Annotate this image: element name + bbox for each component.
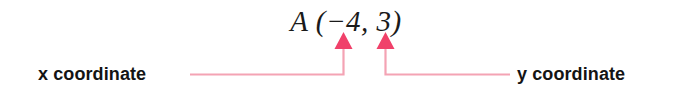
y-leader-line [386,47,511,75]
y-coordinate-label: y coordinate [517,64,625,84]
x-coordinate-leader [190,32,353,75]
y-coordinate-leader [377,32,511,75]
x-coordinate-label: x coordinate [38,64,146,84]
ordered-pair-notation: A (−4, 3) [0,4,692,38]
coordinate-callout-figure: A (−4, 3) x coordinate y coordinate [0,0,692,94]
x-leader-line [190,47,344,75]
